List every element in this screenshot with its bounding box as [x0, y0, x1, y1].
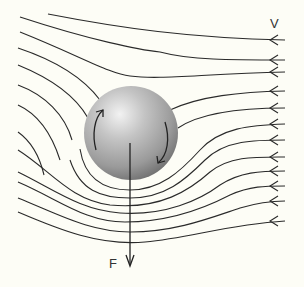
rotating-sphere: [84, 86, 178, 180]
arrowhead-icon: [270, 216, 278, 226]
streamline: [170, 91, 285, 110]
flow-arrowheads: [270, 35, 278, 226]
streamline: [18, 132, 44, 175]
streamline: [18, 182, 285, 222]
streamline: [18, 212, 285, 243]
diagram-canvas: [0, 0, 304, 287]
streamline: [18, 85, 72, 140]
streamline: [18, 105, 60, 160]
velocity-label: V: [270, 16, 279, 31]
magnus-effect-diagram: V F: [0, 0, 304, 287]
streamline: [18, 48, 100, 100]
force-label: F: [109, 256, 117, 271]
streamline: [18, 65, 88, 118]
